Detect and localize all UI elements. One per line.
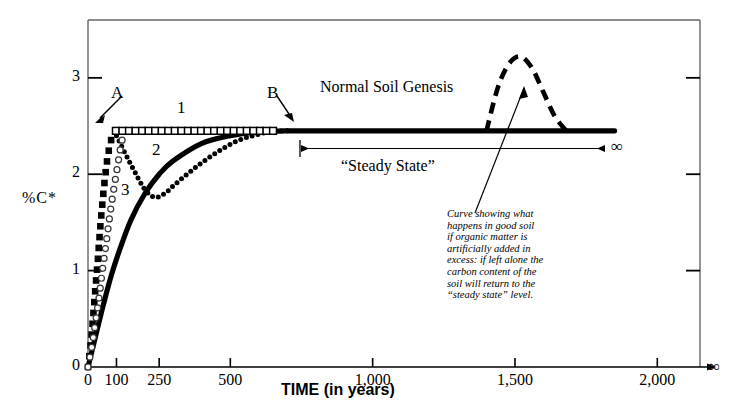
marker-open-circle [111,186,117,192]
plot-frame [88,20,700,367]
marker-open-circle [109,196,115,202]
marker-dot [133,170,138,175]
label-curve-1: 1 [177,98,186,118]
marker-dot [188,169,193,174]
leader-line-annotation [475,86,528,213]
marker-filled-square [98,212,105,219]
marker-open-square [113,127,120,134]
marker-filled-square [102,169,109,176]
marker-open-square [237,127,244,134]
curve-description-annotation: Curve showing whathappens in good soilif… [447,208,543,301]
marker-open-circle [102,246,108,252]
marker-open-square [178,127,185,134]
x-tick-label: 100 [98,371,134,389]
marker-dot [233,139,238,144]
marker-dot [227,142,232,147]
annotation-line: carbon content of the [447,266,543,278]
marker-open-circle [105,226,111,232]
marker-open-circle [108,206,114,212]
marker-filled-square [101,180,108,187]
marker-open-circle [89,344,95,350]
annotation-line: if organic matter is [447,231,543,243]
marker-dot [202,158,207,163]
x-tick-label: 1,500 [497,371,533,389]
marker-dot [130,165,135,170]
marker-open-circle [114,167,120,173]
marker-open-circle [85,364,91,370]
marker-open-circle [97,285,103,291]
normal-soil-genesis-label: Normal Soil Genesis [320,78,453,96]
marker-open-circle [98,275,104,281]
x-tick-label: 250 [141,371,177,389]
marker-open-circle [93,315,99,321]
marker-filled-square [96,234,103,241]
marker-open-square [204,127,211,134]
marker-open-circle [101,255,107,261]
marker-open-circle [90,335,96,341]
marker-open-circle [116,157,122,163]
annotation-line: soil will return to the [447,278,543,290]
marker-dot [244,135,249,140]
marker-dot [161,192,166,197]
infinity-steady-state: ∞ [611,137,623,157]
marker-open-circle [119,137,125,143]
marker-dot [217,148,222,153]
marker-open-square [158,127,165,134]
marker-open-circle [100,265,106,271]
annotation-line: artificially added in [447,243,543,255]
y-tick-label: 1 [62,260,80,278]
marker-dot [145,190,150,195]
marker-open-square [185,127,192,134]
marker-filled-square [105,147,112,154]
y-tick-label: 3 [62,67,80,85]
marker-dot [125,155,130,160]
y-tick-label: 2 [62,163,80,181]
x-tick-label: 500 [212,371,248,389]
chart-canvas [0,0,730,409]
x-axis [88,358,716,371]
marker-dot [198,161,203,166]
marker-dot [174,180,179,185]
marker-open-square [132,127,139,134]
steady-state-span [300,140,605,157]
y-axis-label: %C* [22,189,57,207]
marker-open-square [126,127,133,134]
marker-dot [156,195,161,200]
marker-open-circle [106,216,112,222]
marker-open-square [152,127,159,134]
label-curve-2: 2 [152,140,161,160]
marker-dot [141,186,146,191]
marker-dot [127,160,132,165]
marker-dot [279,129,284,134]
marker-open-square [263,127,270,134]
marker-dot [184,173,189,178]
marker-open-square [171,127,178,134]
marker-filled-square [100,191,107,198]
marker-open-square [230,127,237,134]
marker-dot [138,181,143,186]
series-2-dots [114,128,290,199]
marker-open-circle [95,305,101,311]
label-curve-3: 3 [121,180,130,200]
marker-open-circle [117,147,123,153]
marker-open-square [257,127,264,134]
marker-open-square [211,127,218,134]
marker-filled-square [95,255,102,262]
marker-dot [238,137,243,142]
marker-filled-square [99,201,106,208]
marker-open-square [250,127,257,134]
marker-open-square [145,127,152,134]
leader-line-b [277,96,294,122]
marker-dot [285,128,290,133]
marker-dot [222,145,227,150]
y-tick-label: 0 [62,356,80,374]
marker-filled-square [104,158,111,165]
chart-figure: %C* TIME (in years) A B 1 2 3 Normal Soi… [0,0,730,409]
x-tick-label: 1,000 [355,371,391,389]
marker-open-circle [87,354,93,360]
marker-open-square [217,127,224,134]
marker-dot [150,194,155,199]
marker-open-square [165,127,172,134]
infinity-x-axis: ∞ [708,357,720,377]
marker-open-square [198,127,205,134]
